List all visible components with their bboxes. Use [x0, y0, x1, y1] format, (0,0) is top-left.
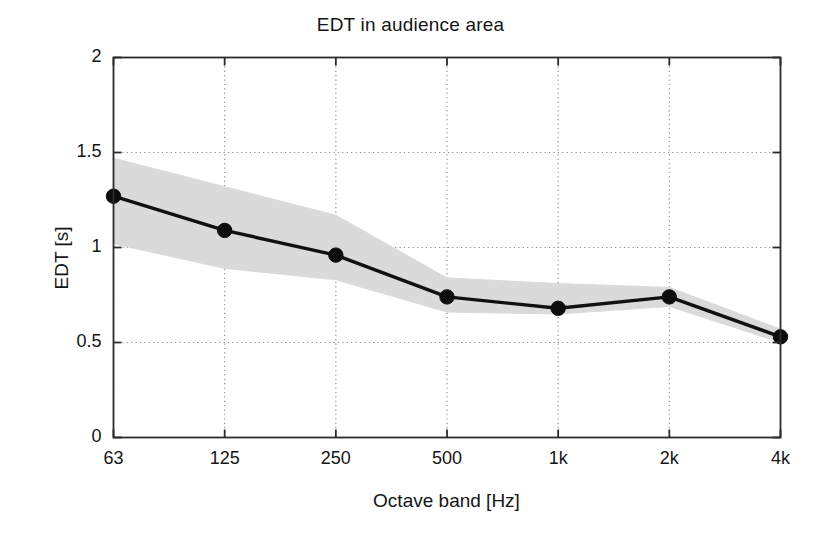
x-tick-label: 500 [412, 448, 482, 469]
figure-canvas: EDT in audience area 00.511.52 631252505… [0, 0, 821, 533]
x-tick-label: 250 [301, 448, 371, 469]
x-tick-label: 2k [634, 448, 704, 469]
y-tick-label: 2 [32, 46, 102, 67]
y-axis-title: EDT [s] [51, 188, 73, 328]
x-tick-label: 125 [190, 448, 260, 469]
y-tick-label: 0.5 [32, 331, 102, 352]
y-tick-label: 1.5 [32, 141, 102, 162]
y-tick-label: 0 [32, 426, 102, 447]
x-tick-label: 63 [79, 448, 149, 469]
x-tick-label: 4k [746, 448, 816, 469]
x-tick-label: 1k [523, 448, 593, 469]
x-axis-title: Octave band [Hz] [113, 490, 780, 512]
